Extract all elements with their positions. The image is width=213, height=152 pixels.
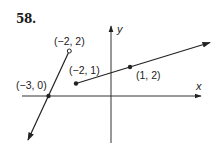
y-axis-label: y: [116, 23, 124, 35]
closed-point-neg3-0: [46, 94, 50, 98]
open-point-neg2-2: [67, 49, 71, 53]
x-axis-label: x: [195, 80, 202, 92]
label-point-neg2-1: (−2, 1): [69, 64, 100, 76]
problem-number: 58.: [16, 12, 36, 26]
piecewise-graph-figure: 58. x y (−2, 2) (−2, 1) (1, 2) (−3, 0): [0, 0, 213, 152]
label-point-1-2: (1, 2): [136, 69, 161, 81]
closed-point-neg2-1: [74, 81, 78, 85]
label-point-neg3-0: (−3, 0): [16, 79, 47, 91]
closed-point-1-2: [128, 65, 132, 69]
label-point-neg2-2: (−2, 2): [54, 35, 85, 47]
